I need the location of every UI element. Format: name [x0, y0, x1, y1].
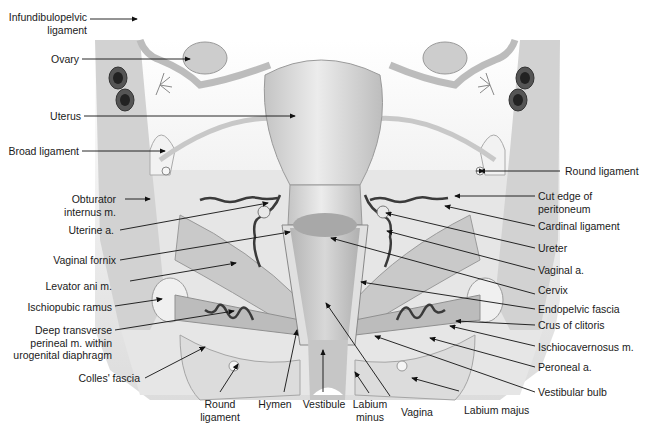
label-ureter: Ureter	[538, 242, 567, 255]
label-labium-minus: Labium minus	[350, 398, 390, 423]
label-vagina: Vagina	[397, 406, 437, 419]
label-crus-of-clitoris: Crus of clitoris	[538, 319, 605, 332]
label-ischiopubic-ramus: Ischiopubic ramus	[0, 301, 112, 314]
label-vaginal-artery: Vaginal a.	[538, 264, 584, 277]
label-broad-ligament: Broad ligament	[0, 145, 79, 158]
label-vestibule: Vestibule	[298, 398, 350, 411]
label-levator-ani: Levator ani m.	[0, 280, 112, 293]
label-infundibulopelvic-ligament: Infundibulopelvic ligament	[0, 11, 87, 36]
anatomy-diagram: Infundibulopelvic ligament Ovary Uterus …	[0, 0, 645, 425]
label-cut-edge-peritoneum: Cut edge of peritoneum	[538, 190, 592, 215]
label-cervix: Cervix	[538, 284, 568, 297]
label-colles-fascia: Colles' fascia	[0, 372, 140, 385]
label-endopelvic-fascia: Endopelvic fascia	[538, 303, 620, 316]
label-vestibular-bulb: Vestibular bulb	[538, 386, 607, 399]
label-deep-transverse-perineal: Deep transverse perineal m. within uroge…	[0, 324, 112, 362]
label-ovary: Ovary	[0, 53, 79, 66]
label-obturator-internus: Obturator internus m.	[0, 193, 116, 218]
label-labium-majus: Labium majus	[464, 404, 529, 417]
label-round-ligament-right: Round ligament	[565, 165, 639, 178]
label-round-ligament-bottom: Round ligament	[195, 398, 245, 423]
label-uterine-artery: Uterine a.	[0, 224, 114, 237]
label-hymen: Hymen	[255, 398, 295, 411]
label-cardinal-ligament: Cardinal ligament	[538, 220, 620, 233]
label-vaginal-fornix: Vaginal fornix	[0, 254, 116, 267]
label-ischiocavernosus: Ischiocavernosus m.	[538, 341, 634, 354]
label-uterus: Uterus	[0, 110, 81, 123]
label-peroneal-artery: Peroneal a.	[538, 361, 592, 374]
